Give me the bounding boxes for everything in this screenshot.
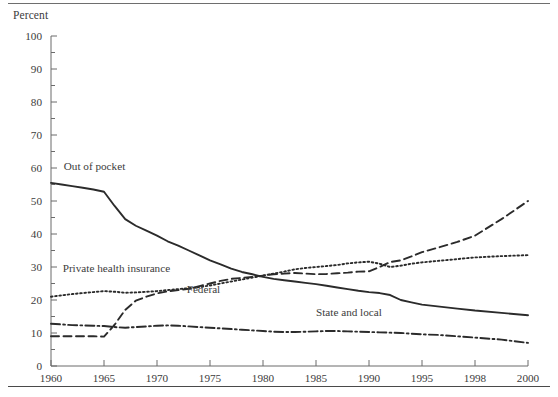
y-tick-label: 50 (31, 195, 43, 207)
y-tick-label: 30 (31, 261, 43, 273)
series-label-federal: Federal (187, 283, 221, 295)
series-label-state-and-local: State and local (316, 306, 382, 318)
x-tick-label: 1975 (199, 372, 222, 384)
y-tick-label: 90 (31, 63, 43, 75)
y-axis: 0102030405060708090100 (25, 30, 57, 372)
y-tick-label: 10 (31, 327, 43, 339)
x-axis: 1960196519701975198019851990199519982000 (40, 360, 540, 384)
y-tick-label: 20 (31, 294, 43, 306)
line-chart: 0102030405060708090100 19601965197019751… (0, 0, 558, 397)
x-tick-label: 1990 (358, 372, 381, 384)
x-tick-label: 2000 (517, 372, 540, 384)
y-tick-label: 100 (25, 30, 42, 42)
bottom-rule (8, 386, 550, 387)
x-tick-label: 1965 (93, 372, 116, 384)
y-tick-label: 80 (31, 96, 43, 108)
y-tick-label: 0 (36, 360, 42, 372)
x-tick-label: 1980 (252, 372, 275, 384)
x-tick-label: 1998 (464, 372, 487, 384)
y-tick-label: 70 (31, 129, 43, 141)
figure-container: Percent 0102030405060708090100 196019651… (0, 0, 558, 397)
series-line-out-of-pocket (51, 183, 528, 315)
x-tick-label: 1995 (411, 372, 434, 384)
series-line-state-and-local (51, 324, 528, 343)
series-label-out-of-pocket: Out of pocket (64, 160, 126, 172)
y-tick-label: 40 (31, 228, 43, 240)
series-label-private-health-insurance: Private health insurance (63, 262, 171, 274)
x-tick-label: 1985 (305, 372, 328, 384)
x-tick-label: 1960 (40, 372, 63, 384)
series-labels: Out of pocketPrivate health insuranceFed… (63, 160, 382, 318)
x-tick-label: 1970 (146, 372, 169, 384)
y-tick-label: 60 (31, 162, 43, 174)
